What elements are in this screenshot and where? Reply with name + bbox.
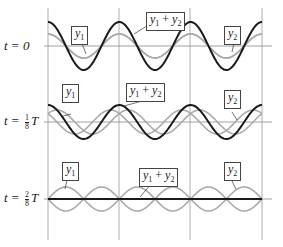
tag-sub: 2 <box>233 169 237 178</box>
label-suffix: T <box>31 190 38 205</box>
tag-sum-row3: y1 + y2 <box>139 168 178 187</box>
row-label-t1-8: t = 18T <box>4 113 38 131</box>
tag-y1-row3: y1 <box>62 162 79 181</box>
label-value: 0 <box>23 38 30 53</box>
row-label-t2-8: t = 28T <box>4 190 38 208</box>
tag-y2-row3: y2 <box>224 162 241 181</box>
tag-sub: 2 <box>233 97 237 106</box>
tag-sum-row2: y1 + y2 <box>126 83 165 102</box>
tag-plus: + <box>152 168 165 182</box>
label-suffix: T <box>31 113 38 128</box>
tag-y2-row2: y2 <box>224 90 241 109</box>
tag-sub: 2 <box>177 19 181 28</box>
fraction: 28 <box>25 191 29 208</box>
label-prefix: t = <box>4 190 23 205</box>
label-prefix: t = <box>4 38 23 53</box>
tag-plus: + <box>139 83 152 97</box>
tag-sub: 1 <box>71 91 75 100</box>
fraction: 18 <box>25 114 29 131</box>
tag-y1-row2: y1 <box>62 84 79 103</box>
tag-sub: 2 <box>170 175 174 184</box>
fraction-denominator: 8 <box>25 123 29 131</box>
tag-y2-row1: y2 <box>224 26 241 45</box>
fraction-denominator: 8 <box>25 200 29 208</box>
tag-sub: 2 <box>157 90 161 99</box>
tag-y1-row1: y1 <box>71 26 88 45</box>
tag-sub: 2 <box>233 33 237 42</box>
tag-sum-row1: y1 + y2 <box>146 12 185 31</box>
row-label-t0: t = 0 <box>4 38 29 54</box>
tag-plus: + <box>159 12 172 26</box>
tag-sub: 1 <box>71 169 75 178</box>
tag-sub: 1 <box>80 33 84 42</box>
label-prefix: t = <box>4 113 23 128</box>
